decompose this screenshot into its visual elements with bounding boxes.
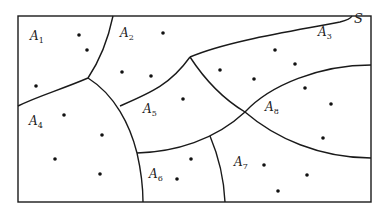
sample-point — [100, 133, 104, 137]
region-label-a4: A4 — [29, 115, 43, 130]
sample-space-boundary — [18, 16, 371, 202]
sample-point — [175, 177, 179, 181]
sample-point — [181, 97, 185, 101]
sample-point — [273, 48, 277, 52]
sample-point — [62, 113, 66, 117]
region-label-a1: A1 — [30, 30, 44, 45]
region-label-a5: A5 — [143, 103, 157, 118]
sample-point — [293, 62, 297, 66]
boundary-a8-lower — [245, 112, 371, 158]
region-label-a2: A2 — [120, 27, 134, 42]
region-label-a7: A7 — [234, 156, 248, 171]
boundary-a1-a2 — [88, 16, 113, 78]
sample-point — [218, 68, 222, 72]
boundary-a6-a7 — [210, 136, 225, 202]
sample-space-label: S — [354, 11, 363, 26]
sample-point — [262, 163, 266, 167]
boundary-a1-a4 — [18, 78, 88, 106]
sample-point — [85, 48, 89, 52]
boundary-a5-upper — [190, 57, 245, 112]
sample-point — [329, 102, 333, 106]
sample-point — [120, 70, 124, 74]
sample-point — [98, 172, 102, 176]
sample-point — [34, 84, 38, 88]
sample-point — [53, 157, 57, 161]
boundary-a2-a5 — [120, 57, 190, 106]
region-label-a3: A3 — [318, 26, 332, 41]
sample-point — [276, 189, 280, 193]
sample-point — [252, 77, 256, 81]
boundary-a4-right — [88, 78, 143, 202]
sample-point — [321, 136, 325, 140]
sample-point — [77, 33, 81, 37]
region-label-a6: A6 — [149, 168, 163, 183]
sample-point — [305, 173, 309, 177]
boundary-a8-upper — [245, 65, 371, 112]
sample-point — [303, 86, 307, 90]
partition-diagram: S A1A2A3A4A5A6A7A8 — [0, 0, 388, 218]
sample-point — [189, 157, 193, 161]
boundary-a5-a6 — [137, 112, 245, 153]
sample-point — [149, 74, 153, 78]
region-label-a8: A8 — [265, 101, 279, 116]
sample-point — [161, 31, 165, 35]
